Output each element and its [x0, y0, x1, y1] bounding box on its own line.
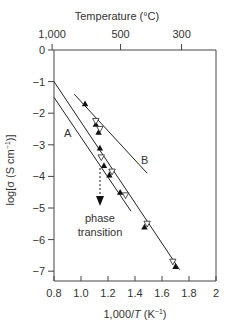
y-tick-label: −3 — [32, 139, 45, 151]
x-tick-label: 2 — [213, 287, 219, 299]
filled-triangle-marker — [101, 162, 107, 168]
series-lines — [54, 82, 180, 270]
open-triangle-marker — [93, 119, 99, 125]
top-tick-label: 1,000 — [38, 28, 66, 40]
open-triangle-marker — [98, 155, 104, 161]
y-tick-label: −4 — [32, 170, 45, 182]
x-tick-label: 0.8 — [46, 287, 61, 299]
y-tick-label: −6 — [32, 234, 45, 246]
y-tick-label: −2 — [32, 107, 45, 119]
line-a-label: A — [64, 127, 72, 139]
axes: 0.81.01.21.41.61.820−1−2−3−4−5−6−71,0005… — [32, 28, 219, 299]
fit-line — [54, 82, 180, 270]
y-axis-title: log[σ (S cm−1)] — [4, 134, 16, 205]
y-tick-label: 0 — [39, 44, 45, 56]
x-tick-label: 1.6 — [154, 287, 169, 299]
conductivity-chart: 0.81.01.21.41.61.820−1−2−3−4−5−6−71,0005… — [0, 0, 227, 331]
data-markers — [82, 101, 179, 270]
phase-transition-label: phase — [85, 212, 115, 224]
y-tick-label: −5 — [32, 202, 45, 214]
x-tick-label: 1.8 — [181, 287, 196, 299]
x-tick-label: 1.4 — [127, 287, 142, 299]
top-tick-label: 500 — [111, 28, 129, 40]
x-axis-title: 1,000/T (K−1) — [103, 308, 166, 320]
top-axis-title: Temperature (°C) — [75, 10, 159, 22]
y-tick-label: −1 — [32, 76, 45, 88]
line-b-label: B — [141, 154, 148, 166]
x-tick-label: 1.2 — [100, 287, 115, 299]
phase-transition-label-2: transition — [78, 226, 123, 238]
arrow-head-icon — [96, 196, 104, 206]
x-tick-label: 1.0 — [73, 287, 88, 299]
top-tick-label: 300 — [172, 28, 190, 40]
open-triangle-marker — [122, 193, 128, 199]
y-tick-label: −7 — [32, 265, 45, 277]
